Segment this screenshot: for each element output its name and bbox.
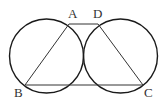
- label-b: B: [14, 85, 23, 100]
- label-d: D: [93, 6, 102, 21]
- label-a: A: [68, 6, 78, 21]
- segment-dc: [98, 24, 143, 85]
- segment-ab: [25, 24, 69, 85]
- right-circle: [84, 19, 158, 93]
- label-c: C: [144, 85, 153, 100]
- geometry-diagram: A D B C: [0, 0, 168, 101]
